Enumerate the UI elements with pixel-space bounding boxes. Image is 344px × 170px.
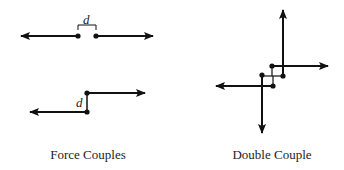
distance-label: d [83, 12, 90, 28]
diagram-canvas [0, 0, 344, 170]
double-couple-caption: Double Couple [232, 147, 311, 163]
double-couple [216, 10, 328, 133]
point-dot [270, 83, 275, 88]
point-dot [75, 33, 80, 38]
point-dot [259, 72, 264, 77]
force-couple-offset [30, 90, 145, 114]
point-dot [269, 63, 274, 68]
force-couples-caption: Force Couples [50, 147, 125, 163]
distance-label: d [76, 95, 83, 111]
point-dot [84, 109, 89, 114]
point-dot [93, 33, 98, 38]
point-dot [84, 90, 89, 95]
point-dot [280, 73, 285, 78]
